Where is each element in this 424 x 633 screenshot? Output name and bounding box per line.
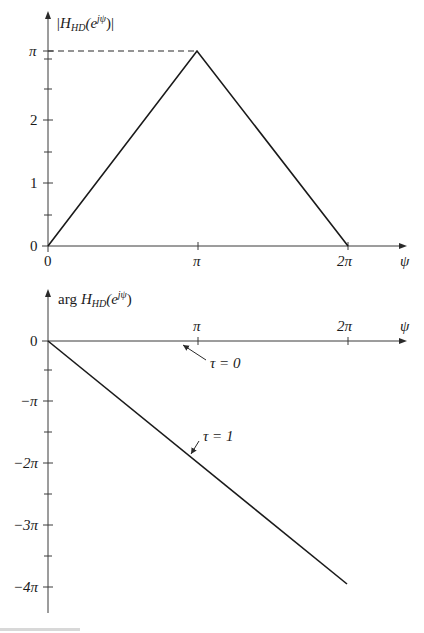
top-y-axis-arrow-icon bbox=[45, 11, 51, 19]
bottom-ytick-label-neg-2pi: −2π bbox=[13, 455, 39, 471]
bottom-ytick-label-neg-pi: −π bbox=[20, 393, 38, 409]
bottom-ytick-label-0: 0 bbox=[30, 333, 38, 349]
top-xtick-label-2pi: 2π bbox=[337, 253, 353, 269]
top-ytick-label-2: 2 bbox=[30, 112, 38, 128]
tau-1-label: τ = 1 bbox=[203, 428, 234, 444]
bottom-xtick-label-pi: π bbox=[193, 318, 201, 334]
bottom-y-axis-arrow-icon bbox=[45, 289, 51, 297]
top-ytick-label-0: 0 bbox=[30, 238, 38, 254]
bottom-x-axis-arrow-icon bbox=[399, 338, 407, 344]
bottom-y-axis-label: argHHD(ejψ) bbox=[58, 289, 132, 309]
top-y-axis-label: |HHD(ejψ)| bbox=[56, 13, 114, 33]
tau-1-arrow-icon bbox=[191, 441, 199, 454]
top-ytick-label-1: 1 bbox=[30, 175, 38, 191]
bottom-xtick-label-2pi: 2π bbox=[337, 318, 353, 334]
top-xtick-label-0: 0 bbox=[44, 253, 52, 269]
tau-0-label: τ = 0 bbox=[210, 355, 241, 371]
phase-chart: 0 −π −2π −3π −4π π 2π ψ argHHD(ejψ) τ = … bbox=[13, 289, 410, 613]
magnitude-curve bbox=[48, 51, 348, 246]
top-x-axis-arrow-icon bbox=[399, 243, 407, 249]
tau-0-arrow-icon bbox=[183, 345, 206, 360]
figure: π 2 1 0 0 π 2π ψ |HHD(ejψ)| bbox=[0, 0, 424, 633]
bottom-ytick-label-neg-3pi: −3π bbox=[13, 517, 39, 533]
tau-1-phase-line bbox=[48, 341, 347, 584]
bottom-ytick-label-neg-4pi: −4π bbox=[13, 579, 39, 595]
magnitude-chart: π 2 1 0 0 π 2π ψ |HHD(ejψ)| bbox=[29, 11, 410, 269]
cropped-caption-strip bbox=[0, 628, 80, 631]
top-x-axis-label: ψ bbox=[400, 253, 410, 269]
top-ytick-label-pi: π bbox=[29, 43, 37, 59]
bottom-x-axis-label: ψ bbox=[400, 318, 410, 334]
top-xtick-label-pi: π bbox=[193, 253, 201, 269]
